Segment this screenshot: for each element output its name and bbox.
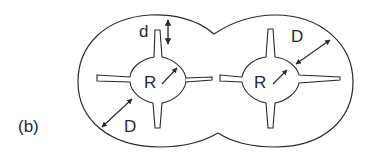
label-r-right: R: [254, 73, 266, 92]
label-d: d: [139, 22, 148, 41]
label-r-left: R: [144, 73, 156, 92]
left-fin-stub-right: [186, 77, 212, 82]
double-lobe-diagram: d R D R D (b): [0, 0, 371, 155]
panel-label: (b): [18, 117, 39, 136]
left-inner-body: [97, 30, 186, 128]
label-d-left: D: [124, 117, 136, 136]
right-body-with-fins: [220, 29, 340, 128]
left-body-with-fins: [97, 30, 186, 128]
label-d-right: D: [291, 27, 303, 46]
